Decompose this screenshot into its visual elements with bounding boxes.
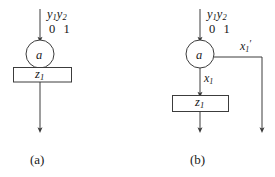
panel-b-input-signal-label: y1y2 0 1 (207, 8, 232, 35)
panel-a-input-signal-label: y1y2 0 1 (47, 8, 72, 35)
diagram-canvas (0, 0, 275, 177)
panel-a-input-signal-y2: y2 (57, 7, 67, 21)
panel-a-input-signal-y1: y1 (47, 7, 57, 21)
panel-b-down-label-sub: 1 (209, 77, 213, 86)
figure-container: y1y2 0 1 a z1 (a) y1y2 0 1 a x1′ x1 z1 (… (0, 0, 275, 177)
panel-b-branch-label: x1′ (240, 38, 252, 55)
panel-b-output-label: z1 (195, 96, 204, 110)
panel-b-output-label-sub: 1 (200, 100, 204, 110)
panel-a-output-label-sub: 1 (40, 72, 44, 82)
panel-b-input-signal-y1: y1 (207, 7, 217, 21)
panel-b-input-signal-y2: y2 (217, 7, 227, 21)
panel-b-state-label: a (196, 48, 202, 63)
panel-a-input-values: 0 1 (47, 23, 72, 36)
panel-b-branch-label-prime: ′ (249, 38, 251, 49)
panel-a-output-label: z1 (35, 68, 44, 82)
panel-b-caption: (b) (190, 152, 205, 168)
panel-b-input-values: 0 1 (207, 23, 232, 36)
panel-a-state-label: a (36, 48, 42, 63)
panel-a-caption: (a) (30, 152, 44, 168)
panel-b-down-label: x1 (204, 71, 213, 86)
